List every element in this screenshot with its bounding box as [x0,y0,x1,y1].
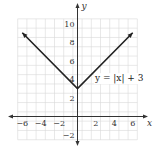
x-tick-label: −6 [16,119,28,128]
x-tick-label: −4 [35,119,47,128]
y-axis-label: y [81,1,88,11]
equation-text: y = |x| + 3 [94,73,144,84]
x-tick-label: 6 [130,119,135,128]
x-axis-left-arrow-icon [8,115,13,119]
graph-absolute-value: xy −6−4−2246−2246810 y = |x| + 3 [0,0,154,149]
x-tick-label: 2 [93,119,98,128]
y-tick-label: 6 [69,57,74,66]
x-axis-label: x [147,118,152,128]
x-tick-label: −2 [53,119,65,128]
y-axis-up-arrow-icon [76,3,80,8]
x-tick-label: 4 [112,119,117,128]
y-tick-label: −2 [63,131,75,140]
y-tick-label: 2 [69,94,74,103]
y-axis-down-arrow-icon [76,141,80,146]
equation-label: y = |x| + 3 [94,73,144,84]
y-tick-label: 8 [69,38,74,47]
y-tick-label: 10 [64,20,74,29]
